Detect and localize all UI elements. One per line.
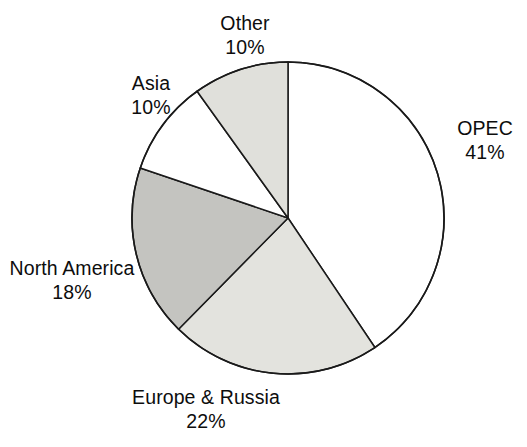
pie-label-north-america-value: 18% bbox=[10, 281, 135, 305]
pie-label-asia-name: Asia bbox=[131, 72, 170, 96]
pie-label-asia-value: 10% bbox=[131, 96, 170, 120]
pie-label-europe-russia: Europe & Russia 22% bbox=[132, 386, 280, 434]
pie-label-asia: Asia 10% bbox=[131, 72, 170, 120]
pie-label-europe-russia-value: 22% bbox=[132, 410, 280, 434]
pie-label-other: Other 10% bbox=[220, 12, 269, 60]
pie-label-north-america-name: North America bbox=[10, 257, 135, 281]
pie-label-other-name: Other bbox=[220, 12, 269, 36]
pie-slice-group bbox=[132, 62, 444, 374]
pie-label-opec: OPEC 41% bbox=[457, 117, 513, 165]
pie-label-europe-russia-name: Europe & Russia bbox=[132, 386, 280, 410]
pie-chart: Other 10% Asia 10% North America 18% Eur… bbox=[0, 0, 527, 447]
pie-label-opec-name: OPEC bbox=[457, 117, 513, 141]
pie-chart-canvas bbox=[0, 0, 527, 447]
pie-label-north-america: North America 18% bbox=[10, 257, 135, 305]
pie-label-other-value: 10% bbox=[220, 36, 269, 60]
pie-label-opec-value: 41% bbox=[457, 141, 513, 165]
